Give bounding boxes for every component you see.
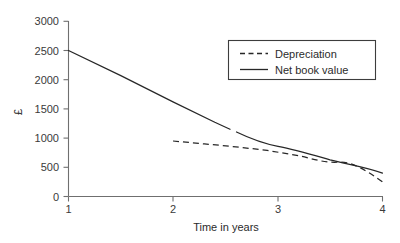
x-tick-label-3: 3 (275, 203, 281, 215)
x-axis-title: Time in years (193, 221, 259, 233)
series-depreciation (173, 141, 383, 182)
x-tick-label-4: 4 (379, 203, 385, 215)
x-tick-label-2: 2 (170, 203, 176, 215)
y-tick-label-1000: 1000 (35, 132, 59, 144)
series-net-book-value-segment-2 (237, 132, 383, 173)
y-tick-label-500: 500 (41, 161, 59, 173)
y-tick-label-3000: 3000 (35, 15, 59, 27)
chart-container: 0 500 1000 1500 2000 2500 3000 £ 1 2 3 4… (0, 0, 400, 243)
y-tick-label-0: 0 (53, 191, 59, 203)
y-axis-title: £ (12, 109, 24, 115)
y-tick-label-2500: 2500 (35, 45, 59, 57)
y-tick-label-1500: 1500 (35, 103, 59, 115)
x-tick-label-1: 1 (65, 203, 71, 215)
line-chart: 0 500 1000 1500 2000 2500 3000 £ 1 2 3 4… (0, 0, 400, 243)
legend-label-net-book-value: Net book value (275, 64, 348, 76)
series-net-book-value-segment-1 (69, 51, 231, 130)
chart-legend: Depreciation Net book value (229, 41, 376, 80)
legend-label-depreciation: Depreciation (275, 48, 337, 60)
y-tick-label-2000: 2000 (35, 74, 59, 86)
